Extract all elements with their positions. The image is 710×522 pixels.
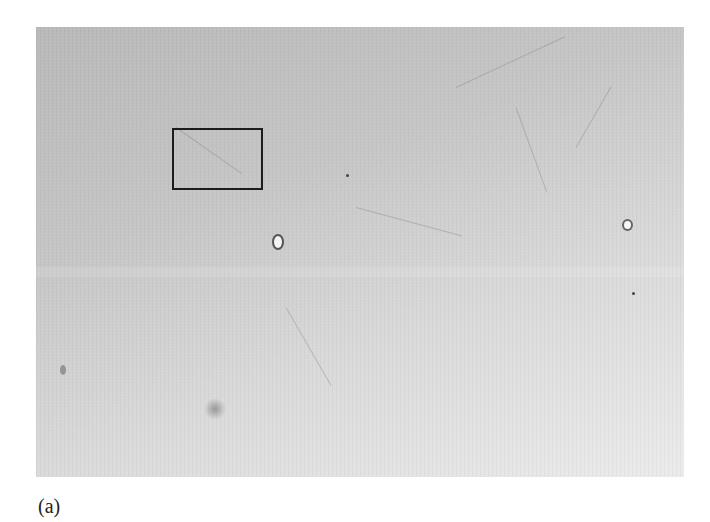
region-of-interest-box — [172, 128, 263, 190]
cell-process — [456, 36, 565, 88]
dark-blur-spot — [204, 398, 226, 420]
panel-label: (a) — [38, 495, 60, 518]
cell-process — [516, 107, 548, 192]
cell-process — [356, 207, 463, 236]
microscopy-image — [36, 27, 684, 477]
cell-process — [286, 307, 332, 385]
round-cell — [624, 221, 631, 229]
debris — [632, 292, 635, 295]
debris — [346, 174, 349, 177]
round-cell — [274, 236, 282, 248]
scan-band — [36, 267, 684, 277]
cell-process — [576, 87, 612, 148]
debris — [60, 365, 66, 375]
